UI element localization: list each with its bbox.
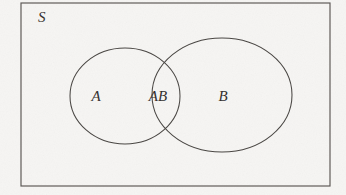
set-a-label: A (90, 88, 101, 104)
intersection-label: AB (148, 88, 167, 104)
venn-diagram-figure: S A AB B (0, 0, 346, 195)
figure-background (0, 0, 346, 195)
set-b-label: B (218, 88, 227, 104)
universal-set-label: S (38, 9, 46, 25)
venn-diagram-canvas: S A AB B (0, 0, 346, 195)
